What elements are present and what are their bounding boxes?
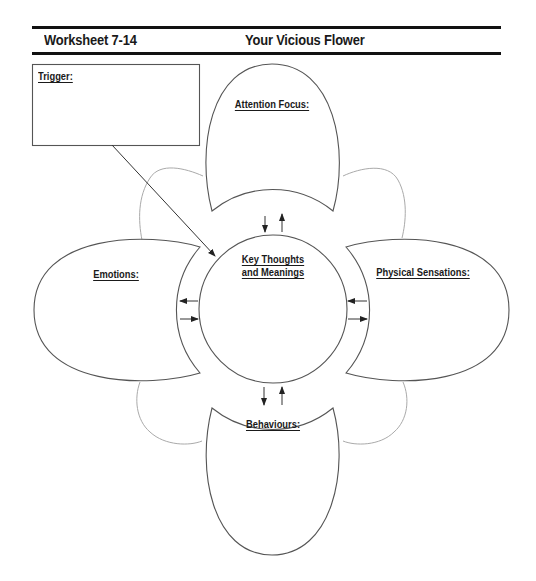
- behaviours-label: Behaviours:: [235, 418, 312, 431]
- behaviours-input[interactable]: [218, 436, 332, 540]
- trigger-label: Trigger:: [38, 70, 73, 83]
- attention-focus-label: Attention Focus:: [230, 98, 315, 111]
- back-petal-top-right: [343, 168, 405, 238]
- emotions-label: Emotions:: [82, 268, 150, 281]
- key-thoughts-input[interactable]: [218, 284, 332, 368]
- trigger-input[interactable]: [36, 88, 200, 146]
- physical-sensations-input[interactable]: [372, 286, 501, 360]
- attention-focus-input[interactable]: [218, 116, 332, 208]
- key-thoughts-label-line1: Key Thoughts: [235, 253, 312, 266]
- back-petal-bottom-left: [137, 382, 202, 444]
- back-petal-bottom-right: [343, 382, 407, 444]
- emotions-input[interactable]: [52, 286, 176, 360]
- physical-sensations-label: Physical Sensations:: [369, 266, 476, 279]
- back-petal-top-left: [140, 168, 203, 240]
- key-thoughts-label-line2: and Meanings: [235, 266, 312, 279]
